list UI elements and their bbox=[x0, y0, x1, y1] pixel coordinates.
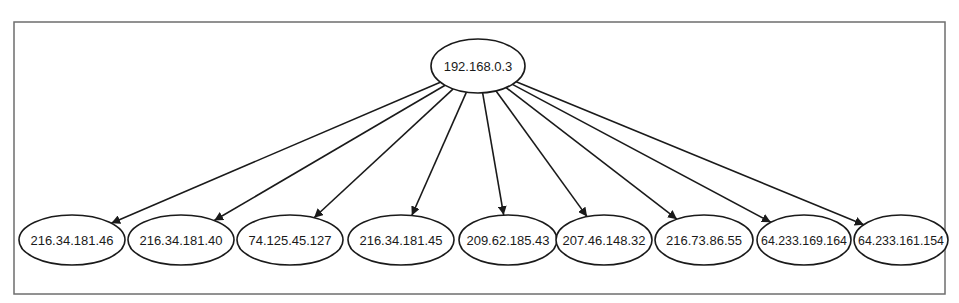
child-node-label: 216.34.181.46 bbox=[30, 233, 113, 248]
edge-arrow bbox=[412, 92, 467, 215]
edge-arrow bbox=[506, 88, 677, 220]
child-node[interactable]: 216.73.86.55 bbox=[655, 215, 753, 265]
edges-layer bbox=[111, 82, 864, 225]
edge-arrow bbox=[111, 82, 440, 223]
edge-arrow bbox=[516, 82, 864, 225]
child-node-label: 216.73.86.55 bbox=[666, 233, 742, 248]
child-node[interactable]: 216.34.181.45 bbox=[348, 215, 454, 265]
edge-arrow bbox=[314, 89, 453, 218]
edge-arrow bbox=[214, 85, 445, 220]
edge-arrow bbox=[483, 93, 504, 215]
child-node[interactable]: 64.233.169.164 bbox=[757, 215, 851, 265]
child-node[interactable]: 74.125.45.127 bbox=[237, 215, 343, 265]
diagram-canvas: 192.168.0.3 216.34.181.46216.34.181.4074… bbox=[0, 0, 959, 303]
edge-arrow bbox=[512, 84, 770, 222]
child-node[interactable]: 209.62.185.43 bbox=[459, 215, 557, 265]
root-node[interactable]: 192.168.0.3 bbox=[431, 39, 525, 93]
child-node[interactable]: 216.34.181.46 bbox=[19, 215, 125, 265]
child-node-label: 74.125.45.127 bbox=[248, 233, 331, 248]
child-node-label: 216.34.181.45 bbox=[359, 233, 442, 248]
nodes-layer: 192.168.0.3 216.34.181.46216.34.181.4074… bbox=[19, 39, 948, 265]
child-node[interactable]: 216.34.181.40 bbox=[128, 215, 234, 265]
child-node-label: 216.34.181.40 bbox=[139, 233, 222, 248]
child-node[interactable]: 207.46.148.32 bbox=[556, 215, 652, 265]
child-node[interactable]: 64.233.161.154 bbox=[854, 215, 948, 265]
child-nodes: 216.34.181.46216.34.181.4074.125.45.1272… bbox=[19, 215, 948, 265]
network-graph: 192.168.0.3 216.34.181.46216.34.181.4074… bbox=[0, 0, 959, 303]
child-node-label: 207.46.148.32 bbox=[562, 233, 645, 248]
child-node-label: 64.233.161.154 bbox=[858, 233, 944, 248]
root-node-label: 192.168.0.3 bbox=[444, 59, 513, 74]
edge-arrow bbox=[496, 91, 587, 217]
child-node-label: 209.62.185.43 bbox=[466, 233, 549, 248]
child-node-label: 64.233.169.164 bbox=[761, 233, 847, 248]
